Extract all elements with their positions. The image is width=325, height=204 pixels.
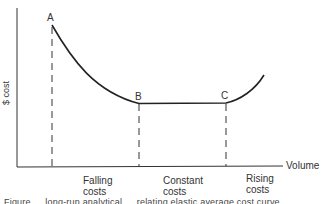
region-constant-costs: Constant costs bbox=[163, 175, 203, 197]
x-axis-label: Volume bbox=[286, 160, 319, 171]
point-a-label: A bbox=[47, 12, 54, 23]
region-rising-line1: Rising bbox=[246, 173, 274, 184]
region-constant-line1: Constant bbox=[163, 175, 203, 186]
region-constant-line2: costs bbox=[163, 186, 203, 197]
point-c-label: C bbox=[221, 90, 228, 101]
figure-caption: Figure … long-run analytical … relating … bbox=[4, 197, 280, 204]
region-rising-costs: Rising costs bbox=[246, 173, 274, 195]
y-axis-label: $ cost bbox=[1, 81, 11, 105]
region-falling-line1: Falling bbox=[83, 175, 112, 186]
region-falling-costs: Falling costs bbox=[83, 175, 112, 197]
x-axis bbox=[17, 166, 283, 167]
region-rising-line2: costs bbox=[246, 184, 274, 195]
cost-curve-chart bbox=[0, 0, 325, 204]
average-cost-curve bbox=[52, 25, 264, 104]
point-b-label: B bbox=[135, 91, 142, 102]
region-falling-line2: costs bbox=[83, 186, 112, 197]
